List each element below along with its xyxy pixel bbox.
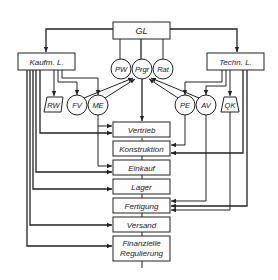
edge-fv-prgr	[84, 78, 133, 98]
rw-node: RW	[44, 97, 63, 112]
versand-node: Versand	[113, 217, 170, 232]
kaufm-node: Kaufm. L.	[18, 53, 75, 70]
pw-label: PW	[115, 65, 128, 74]
edge-kaufm-einkauf	[36, 70, 112, 172]
konstruktion-node: Konstruktion	[113, 141, 170, 156]
edge-qk-fertigung	[171, 112, 230, 210]
versand-label: Versand	[127, 221, 157, 230]
lager-label: Lager	[131, 183, 152, 192]
edge-techn-pe	[185, 70, 222, 95]
edge-pe-konstruktion	[171, 115, 185, 145]
gl-node: GL	[113, 22, 170, 39]
qk-label: QK	[225, 101, 237, 110]
edge-kaufm-lager	[33, 70, 112, 189]
qk-node: QK	[221, 97, 239, 112]
techn-node: Techn. L.	[207, 53, 264, 70]
fv-label: FV	[72, 101, 83, 110]
finanzielle-label: Finanzielle	[122, 239, 161, 248]
me-label: ME	[92, 101, 104, 110]
fertigung-node: Fertigung	[113, 198, 170, 213]
edge-pe-prgr	[149, 79, 178, 98]
einkauf-node: Einkauf	[113, 160, 170, 175]
edge-techn-fertigung	[171, 70, 247, 206]
edge-kaufm-versand	[30, 70, 112, 225]
prgr-node: Prgr	[132, 59, 152, 79]
vertrieb-label: Vertrieb	[128, 126, 156, 135]
rw-label: RW	[47, 101, 60, 110]
edge-kaufm-fv	[58, 70, 77, 95]
rat-label: Rat	[157, 65, 170, 74]
kaufm-label: Kaufm. L.	[29, 58, 63, 67]
pe-label: PE	[180, 101, 191, 110]
av-label: AV	[200, 101, 212, 110]
finanzielle-regulierung-node: Finanzielle Regulierung	[113, 236, 170, 261]
fertigung-label: Fertigung	[125, 202, 159, 211]
techn-label: Techn. L.	[219, 58, 252, 67]
edge-av-prgr	[151, 78, 199, 98]
rat-node: Rat	[153, 59, 173, 79]
vertrieb-node: Vertrieb	[113, 122, 170, 137]
pw-node: PW	[111, 59, 131, 79]
konstruktion-label: Konstruktion	[119, 145, 164, 154]
org-diagram: GL PW Prgr Rat Kaufm. L. Techn. L. RW FV	[0, 0, 278, 280]
regulierung-label: Regulierung	[120, 249, 164, 258]
edge-me-vertrieb	[98, 115, 112, 126]
edge-me-einkauf	[98, 126, 112, 166]
prgr-label: Prgr	[135, 65, 150, 74]
lager-node: Lager	[113, 179, 170, 194]
edge-gl-kaufm	[46, 29, 113, 52]
edge-me-prgr	[105, 79, 135, 98]
edge-av-fertigung	[171, 115, 206, 201]
edge-gl-techn	[170, 29, 237, 52]
gl-label: GL	[135, 26, 147, 36]
einkauf-label: Einkauf	[128, 164, 155, 173]
